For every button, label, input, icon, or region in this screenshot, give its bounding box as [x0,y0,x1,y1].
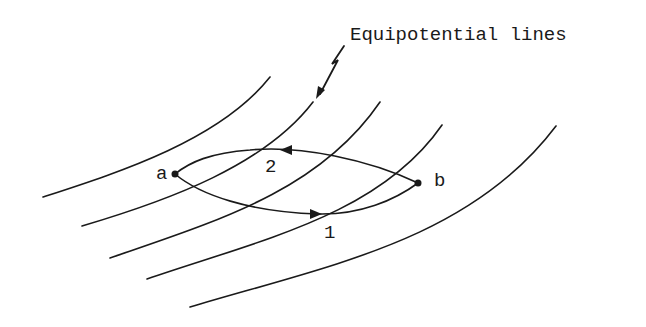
point-a-label: a [156,165,167,184]
path-2-arrowhead [280,145,292,155]
equipotential-line-2 [82,102,313,226]
equipotential-lines-label: Equipotential lines [350,26,567,45]
equipotential-line-3 [110,102,380,258]
equipotential-line-4 [147,125,442,279]
pointer-arrow [320,46,344,94]
path-2-label: 2 [265,158,276,177]
point-b-label: b [434,172,445,191]
diagram-canvas [0,0,646,327]
point-a-dot [172,171,179,178]
equipotential-line-5 [190,126,556,307]
point-b-dot [415,180,422,187]
path-1-label: 1 [324,224,335,243]
equipotential-diagram: Equipotential lines a b 2 1 [0,0,646,327]
